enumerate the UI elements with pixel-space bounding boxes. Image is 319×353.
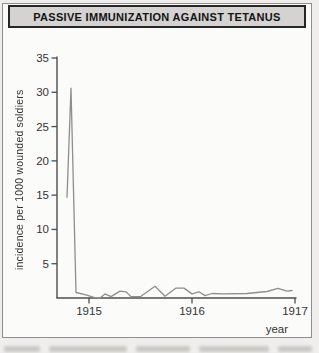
figure-title: PASSIVE IMMUNIZATION AGAINST TETANUS [33,11,281,23]
y-tick-label: 10 [36,223,49,235]
tetanus-incidence-chart: 5101520253035191519161917 [0,0,319,353]
x-axis-label: year [240,323,288,335]
x-tick-label: 1915 [76,305,102,317]
y-tick-label: 35 [36,52,49,64]
x-tick-label: 1917 [282,305,308,317]
figure-title-bar: PASSIVE IMMUNIZATION AGAINST TETANUS [8,5,306,28]
book-page: { "figure": { "title": "PASSIVE IMMUNIZA… [0,0,319,353]
x-tick-label: 1916 [179,305,205,317]
y-tick-label: 25 [36,121,49,133]
y-tick-label: 20 [36,155,49,167]
y-tick-label: 5 [43,258,49,270]
data-line [67,88,292,298]
y-tick-label: 30 [36,86,49,98]
y-tick-label: 15 [36,189,49,201]
